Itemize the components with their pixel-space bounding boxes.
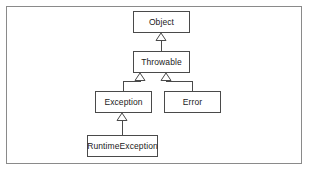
edge-line-error-throwable xyxy=(166,81,192,92)
arrowhead-hollow-triangle-object xyxy=(156,33,166,41)
class-label-object: Object xyxy=(149,18,174,27)
arrowhead-hollow-triangle-throwable-right xyxy=(161,73,171,81)
edge-error-to-throwable xyxy=(161,73,192,91)
arrowhead-hollow-triangle-exception xyxy=(117,113,127,121)
class-label-error: Error xyxy=(183,98,202,107)
class-box-object[interactable]: Object xyxy=(133,11,190,33)
edge-throwable-to-object xyxy=(156,33,166,51)
figure-canvas: Object Throwable Exception Error Runtime… xyxy=(0,0,310,171)
class-label-throwable: Throwable xyxy=(141,58,182,67)
class-box-runtimeexception[interactable]: RuntimeException xyxy=(87,135,158,157)
class-box-throwable[interactable]: Throwable xyxy=(133,51,190,73)
class-box-error[interactable]: Error xyxy=(164,91,221,113)
class-label-runtimeexception: RuntimeException xyxy=(87,142,158,151)
class-label-exception: Exception xyxy=(104,98,142,107)
edge-runtimeexception-to-exception xyxy=(117,113,127,135)
arrowhead-hollow-triangle-throwable-left xyxy=(135,73,145,81)
edge-exception-to-throwable xyxy=(123,73,145,91)
class-box-exception[interactable]: Exception xyxy=(95,91,152,113)
edge-line-exception-throwable xyxy=(123,81,140,92)
